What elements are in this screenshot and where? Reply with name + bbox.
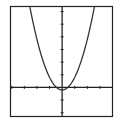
function-graph bbox=[0, 0, 118, 122]
